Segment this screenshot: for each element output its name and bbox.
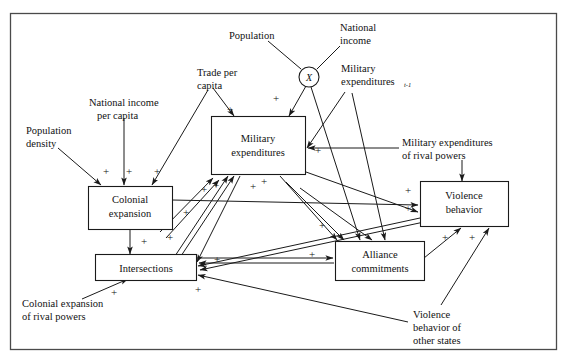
- box-colonial-expansion-line-1: Colonial: [112, 194, 148, 205]
- node-multiplier[interactable]: X: [299, 67, 319, 87]
- sign-other-states-to-violence: +: [469, 231, 475, 243]
- label-national-income-per-capita-line-2: per capita: [97, 110, 138, 121]
- label-rival-colonial-expansion-line-2: of rival powers: [22, 311, 86, 322]
- sign-colonial-to-intersections: +: [141, 235, 147, 247]
- box-colonial-expansion-line-2: expansion: [109, 208, 152, 219]
- label-population-density-line-1: Population: [26, 125, 72, 136]
- label-national-income-line-2: income: [340, 35, 371, 46]
- box-colonial-expansion[interactable]: Colonial expansion: [89, 187, 173, 230]
- label-national-income-per-capita-line-1: National income: [89, 97, 159, 108]
- link-multiplier-to-military-expenditures: [289, 86, 306, 116]
- label-population-density-line-2: density: [26, 138, 57, 149]
- sign-national-income-per-capita-to-colonial: +: [126, 165, 132, 177]
- sign-alliance-to-violence: +: [442, 231, 448, 243]
- path-diagram-page: Military expenditures Colonial expansion…: [0, 0, 568, 364]
- sign-population-density-to-colonial: +: [103, 165, 109, 177]
- box-intersections[interactable]: Intersections: [96, 255, 197, 281]
- box-military-expenditures-line-2: expenditures: [231, 147, 285, 158]
- box-violence-behavior-line-2: behavior: [446, 204, 483, 215]
- link-other-states-violence-to-violence-behavior: [441, 228, 489, 305]
- sign-colonial-to-military-a: +: [201, 183, 207, 195]
- label-rival-military-expenditures-line-1: Military expenditures: [402, 137, 493, 148]
- sign-military-to-violence-a: +: [405, 184, 411, 196]
- node-multiplier-label: X: [305, 72, 313, 83]
- box-violence-behavior[interactable]: Violence behavior: [421, 182, 509, 227]
- box-military-expenditures-line-1: Military: [241, 133, 276, 144]
- sign-multiplier-to-military: +: [273, 92, 279, 104]
- label-other-states-violence-line-3: other states: [413, 335, 461, 346]
- box-intersections-line-1: Intersections: [119, 263, 173, 274]
- box-military-expenditures[interactable]: Military expenditures: [212, 117, 306, 175]
- link-population-to-multiplier: [268, 41, 301, 69]
- link-national-income-to-multiplier: [317, 46, 340, 69]
- label-other-states-violence-line-1: Violence: [413, 309, 451, 320]
- link-population-density-to-colonial-expansion: [58, 148, 101, 185]
- link-extra-to-alliance-commitments-a: [286, 182, 344, 240]
- link-military-expenditures-lagged-to-alliance-commitments: [352, 93, 385, 240]
- label-military-expenditures-lagged-line-1: Military: [341, 63, 376, 74]
- sign-to-alliance-b: +: [319, 219, 325, 231]
- label-other-states-violence-line-2: behavior of: [413, 322, 462, 333]
- label-trade-per-capita-line-2: capita: [197, 80, 222, 91]
- link-trade-per-capita-to-colonial-expansion: [152, 90, 208, 185]
- sign-colonial-to-military-b: +: [183, 206, 189, 218]
- link-military-expenditures-to-violence-behavior: [306, 172, 418, 212]
- sign-military-to-intersections: +: [167, 231, 173, 243]
- label-national-income-line-1: National: [340, 22, 376, 33]
- box-alliance-commitments-line-2: commitments: [351, 263, 408, 274]
- sign-violence-to-intersections: +: [214, 253, 220, 265]
- sign-intersections-to-alliance: +: [309, 248, 315, 260]
- sign-rival-colonial-to-intersections: +: [111, 286, 117, 298]
- sign-other-states-to-intersections: +: [195, 283, 201, 295]
- box-alliance-commitments-line-1: Alliance: [362, 249, 398, 260]
- label-military-expenditures-lagged-line-2: expenditures: [341, 76, 395, 87]
- causal-path-diagram: Military expenditures Colonial expansion…: [0, 0, 568, 364]
- sign-rival-military-to-military: +: [315, 144, 321, 156]
- box-violence-behavior-line-1: Violence: [445, 190, 483, 201]
- sign-military-out-b: +: [261, 175, 267, 187]
- label-military-expenditures-lagged-subscript: t-1: [404, 81, 411, 88]
- link-multiplier-to-alliance-commitments: [311, 87, 360, 240]
- label-population: Population: [229, 30, 275, 41]
- sign-military-out-a: +: [250, 180, 256, 192]
- sign-military-to-violence-b: +: [405, 202, 411, 214]
- label-trade-per-capita-line-1: Trade per: [197, 67, 238, 78]
- sign-intersections-to-military: +: [213, 179, 219, 191]
- link-other-states-violence-to-intersections: [198, 275, 408, 322]
- label-rival-military-expenditures-line-2: of rival powers: [402, 150, 466, 161]
- sign-trade-to-colonial: +: [154, 165, 160, 177]
- link-rival-colonial-expansion-to-intersections: [82, 279, 128, 299]
- box-alliance-commitments[interactable]: Alliance commitments: [336, 242, 425, 281]
- label-rival-colonial-expansion-line-1: Colonial expansion: [22, 298, 104, 309]
- sign-trade-to-military: +: [227, 103, 233, 115]
- link-military-expenditures-lagged-to-military-expenditures: [307, 92, 345, 148]
